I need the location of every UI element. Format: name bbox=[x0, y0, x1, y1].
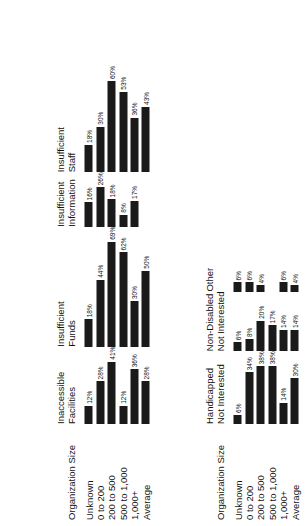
bar bbox=[142, 271, 150, 347]
bar-value-label: 69% bbox=[108, 227, 115, 240]
bar-row: 36% bbox=[129, 347, 140, 424]
category-label: 500 to 1,000 bbox=[266, 424, 277, 520]
category-label: 200 to 500 bbox=[255, 424, 266, 520]
category-label: Unknown bbox=[232, 424, 243, 520]
bar-value-label: 38% bbox=[257, 351, 264, 364]
category-label: 500 to 1,000 bbox=[117, 424, 128, 520]
bar bbox=[119, 92, 127, 173]
category-label: 0 to 200 bbox=[244, 424, 255, 520]
bar bbox=[291, 285, 299, 291]
category-label: 0 to 200 bbox=[95, 424, 106, 520]
panel-title: Inaccessible Facilities bbox=[54, 347, 76, 424]
panel-title: Other bbox=[203, 268, 225, 292]
bar-value-label: 53% bbox=[120, 77, 127, 90]
bar-row: 18% bbox=[106, 172, 117, 227]
category-list: Unknown0 to 200200 to 500500 to 1,0001,0… bbox=[83, 424, 151, 520]
bar bbox=[85, 406, 93, 424]
bar-row: 38% bbox=[266, 351, 277, 424]
bar-row: 43% bbox=[140, 66, 151, 172]
bar-row: 6% bbox=[244, 268, 255, 292]
bar bbox=[119, 215, 127, 227]
bar bbox=[279, 282, 287, 291]
bar-row: 60% bbox=[106, 66, 117, 172]
bar-value-label: 12% bbox=[120, 391, 127, 404]
bar-row bbox=[266, 268, 277, 292]
bar bbox=[291, 330, 299, 351]
bar-row: 30% bbox=[95, 66, 106, 172]
panel-rows: 16%26%18%8%17% bbox=[83, 172, 151, 227]
category-list: Unknown0 to 200200 to 500500 to 1,0001,0… bbox=[232, 424, 300, 520]
bar-row: 12% bbox=[83, 347, 94, 424]
bar-row: 12% bbox=[117, 347, 128, 424]
bar-row: 34% bbox=[244, 351, 255, 424]
bar-value-label: 28% bbox=[97, 366, 104, 379]
bar-value-label: 20% bbox=[257, 306, 264, 319]
bar-value-label: 4% bbox=[291, 274, 298, 283]
bar bbox=[85, 145, 93, 172]
bar bbox=[85, 319, 93, 346]
panel-rows: 6%6%4%6%4% bbox=[232, 268, 300, 292]
bar-value-label: 30% bbox=[291, 363, 298, 376]
bar-value-label: 4% bbox=[257, 274, 264, 283]
bar-value-label: 38% bbox=[269, 351, 276, 364]
chart-band: Organization SizeUnknown0 to 200200 to 5… bbox=[13, 4, 152, 520]
chart-panel: Inaccessible Facilities12%28%41%12%36%28… bbox=[13, 347, 152, 424]
bar-value-label: 16% bbox=[85, 187, 92, 200]
bar-row: 14% bbox=[278, 351, 289, 424]
chart-band: Organization SizeUnknown0 to 200200 to 5… bbox=[162, 4, 301, 520]
category-label: Unknown bbox=[83, 424, 94, 520]
bar bbox=[257, 285, 265, 291]
bar bbox=[130, 369, 138, 424]
bar-value-label: 18% bbox=[85, 130, 92, 143]
bar-row: 41% bbox=[106, 347, 117, 424]
category-label: Average bbox=[289, 424, 300, 520]
bar-row: 18% bbox=[83, 227, 94, 347]
bar-row: 53% bbox=[117, 66, 128, 172]
bar-row: 6% bbox=[232, 268, 243, 292]
bar bbox=[108, 199, 116, 226]
bar bbox=[130, 118, 138, 173]
rotated-figure-stage: Organization SizeUnknown0 to 200200 to 5… bbox=[7, 0, 308, 526]
bar-value-label: 17% bbox=[269, 310, 276, 323]
bar bbox=[234, 342, 242, 351]
bar-value-label: 14% bbox=[280, 388, 287, 401]
bar-row: 16% bbox=[83, 172, 94, 227]
stub-title: Organization Size bbox=[65, 424, 76, 520]
panel-rows: 6%34%38%38%14%30% bbox=[232, 351, 300, 424]
chart-panel: Insufficient Funds18%44%69%62%30%50% bbox=[13, 227, 152, 347]
stub-title: Organization Size bbox=[214, 424, 225, 520]
panel-title: Insufficient Information bbox=[54, 172, 76, 227]
bar-row: 30% bbox=[289, 351, 300, 424]
bar bbox=[268, 366, 276, 424]
bar-row: 18% bbox=[83, 66, 94, 172]
bar-value-label: 36% bbox=[131, 354, 138, 367]
bar bbox=[291, 378, 299, 424]
chart-panel: Non-Disabled Not Interested6%8%20%17%14%… bbox=[162, 292, 301, 352]
bar-value-label: 41% bbox=[108, 347, 115, 360]
bar-value-label: 50% bbox=[142, 256, 149, 269]
bar bbox=[108, 362, 116, 424]
bar-value-label: 6% bbox=[234, 403, 241, 412]
bar bbox=[142, 107, 150, 172]
bar bbox=[130, 301, 138, 347]
bar-value-label: 6% bbox=[280, 271, 287, 280]
bar-value-label: 44% bbox=[97, 265, 104, 278]
bar-row: 20% bbox=[255, 292, 266, 352]
bar bbox=[108, 81, 116, 172]
category-stub-column: Organization SizeUnknown0 to 200200 to 5… bbox=[162, 424, 301, 520]
bar-row: 17% bbox=[266, 292, 277, 352]
bar bbox=[245, 339, 253, 351]
bar bbox=[96, 280, 104, 347]
bar-row: 14% bbox=[278, 292, 289, 352]
bar-value-label: 6% bbox=[234, 331, 241, 340]
bar-row: 6% bbox=[278, 268, 289, 292]
category-label: Average bbox=[140, 424, 151, 520]
bar bbox=[142, 381, 150, 424]
bar bbox=[119, 406, 127, 424]
bar-value-label: 60% bbox=[108, 66, 115, 79]
bar-value-label: 14% bbox=[291, 315, 298, 328]
bar bbox=[96, 127, 104, 173]
bar-row: 6% bbox=[232, 292, 243, 352]
bar bbox=[130, 201, 138, 227]
chart-panel: Insufficient Information16%26%18%8%17% bbox=[13, 172, 152, 227]
